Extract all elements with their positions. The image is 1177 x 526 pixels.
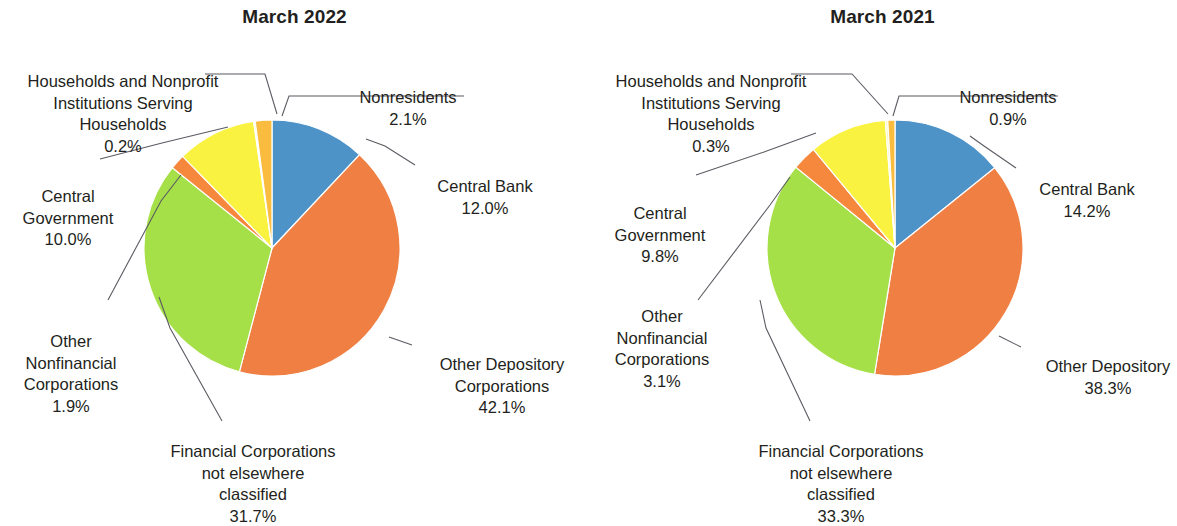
label-nonresidents-left-text: Nonresidents bbox=[359, 88, 456, 106]
label-other-nonfinancial-right-text: Other Nonfinancial Corporations bbox=[615, 307, 709, 368]
label-other-nonfinancial-right-pct: 3.1% bbox=[596, 371, 728, 392]
label-central-bank-left-text: Central Bank bbox=[437, 177, 532, 195]
chart-panel-march-2021: March 2021 Households and Nonprofit Inst… bbox=[588, 0, 1177, 507]
label-households-right-pct: 0.3% bbox=[594, 136, 828, 157]
label-central-government-left: Central Government 10.0% bbox=[6, 165, 130, 272]
label-central-government-right-text: Central Government bbox=[615, 204, 706, 243]
label-nonresidents-left-pct: 2.1% bbox=[318, 109, 498, 130]
label-central-bank-right: Central Bank 14.2% bbox=[1012, 158, 1162, 244]
label-nonresidents-right: Nonresidents 0.9% bbox=[918, 66, 1098, 152]
label-other-depository-right-text: Other Depository bbox=[1046, 357, 1171, 375]
label-other-depository-left: Other Depository Corporations 42.1% bbox=[418, 333, 586, 440]
label-central-government-right-pct: 9.8% bbox=[598, 246, 722, 267]
label-financial-nec-right-text: Financial Corporations not elsewhere cla… bbox=[758, 442, 923, 503]
leader-other-depository-left bbox=[389, 337, 412, 345]
label-other-depository-left-text: Other Depository Corporations bbox=[440, 355, 565, 394]
label-households-left-pct: 0.2% bbox=[6, 136, 240, 157]
label-central-bank-left-pct: 12.0% bbox=[410, 198, 560, 219]
label-other-depository-left-pct: 42.1% bbox=[418, 397, 586, 418]
label-other-nonfinancial-left-pct: 1.9% bbox=[6, 396, 136, 417]
label-central-bank-left: Central Bank 12.0% bbox=[410, 155, 560, 241]
label-nonresidents-right-text: Nonresidents bbox=[959, 88, 1056, 106]
label-central-government-left-text: Central Government bbox=[23, 187, 114, 226]
label-financial-nec-left-text: Financial Corporations not elsewhere cla… bbox=[170, 442, 335, 503]
chart-panel-march-2022: March 2022 Households and Nonp bbox=[0, 0, 589, 507]
label-central-government-left-pct: 10.0% bbox=[6, 229, 130, 250]
label-financial-nec-right-pct: 33.3% bbox=[736, 506, 946, 526]
label-other-nonfinancial-left-text: Other Nonfinancial Corporations bbox=[24, 332, 118, 393]
label-financial-nec-right: Financial Corporations not elsewhere cla… bbox=[736, 420, 946, 526]
label-other-nonfinancial-right: Other Nonfinancial Corporations 3.1% bbox=[596, 285, 728, 414]
label-nonresidents-right-pct: 0.9% bbox=[918, 109, 1098, 130]
label-households-right-text: Households and Nonprofit Institutions Se… bbox=[616, 72, 807, 133]
label-other-nonfinancial-left: Other Nonfinancial Corporations 1.9% bbox=[6, 310, 136, 439]
label-central-bank-right-text: Central Bank bbox=[1039, 180, 1134, 198]
label-other-depository-right-pct: 38.3% bbox=[1028, 378, 1177, 399]
label-nonresidents-left: Nonresidents 2.1% bbox=[318, 66, 498, 152]
label-households-left: Households and Nonprofit Institutions Se… bbox=[6, 50, 240, 179]
label-central-government-right: Central Government 9.8% bbox=[598, 182, 722, 289]
label-households-right: Households and Nonprofit Institutions Se… bbox=[594, 50, 828, 179]
label-central-bank-right-pct: 14.2% bbox=[1012, 201, 1162, 222]
label-households-left-text: Households and Nonprofit Institutions Se… bbox=[28, 72, 219, 133]
leader-other-depository-right bbox=[999, 336, 1021, 347]
label-financial-nec-left-pct: 31.7% bbox=[148, 506, 358, 526]
label-other-depository-right: Other Depository 38.3% bbox=[1028, 335, 1177, 421]
label-financial-nec-left: Financial Corporations not elsewhere cla… bbox=[148, 420, 358, 526]
